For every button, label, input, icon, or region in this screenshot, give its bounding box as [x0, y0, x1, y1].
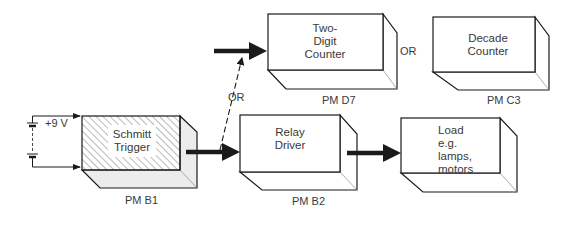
block-line: Relay — [265, 126, 315, 139]
battery-voltage-label: +9 V — [45, 117, 68, 130]
load-text: Load e.g. lamps, motors — [438, 124, 488, 176]
block-line: Digit — [295, 35, 355, 48]
block-line: Two- — [295, 22, 355, 35]
or-label-counter-alt: OR — [400, 45, 417, 58]
block-line: Decade — [458, 32, 518, 45]
arrow-dashed-or — [220, 58, 242, 150]
two-digit-counter-text: Two- Digit Counter — [295, 22, 355, 61]
block-line: Schmitt — [106, 128, 158, 141]
module-label-pm-c3: PM C3 — [487, 94, 521, 107]
block-line: Driver — [265, 139, 315, 152]
module-label-pm-d7: PM D7 — [322, 94, 356, 107]
block-line: Counter — [458, 45, 518, 58]
relay-driver-text: Relay Driver — [265, 126, 315, 152]
module-label-pm-b2: PM B2 — [292, 195, 325, 208]
block-line: e.g. — [438, 137, 488, 150]
block-line: motors — [438, 163, 488, 176]
block-line: lamps, — [438, 150, 488, 163]
module-label-pm-b1: PM B1 — [125, 194, 158, 207]
block-line: Load — [438, 124, 488, 137]
block-line: Trigger — [106, 141, 158, 154]
block-line: Counter — [295, 48, 355, 61]
schmitt-trigger-text: Schmitt Trigger — [106, 128, 158, 154]
or-label-dashed-branch: OR — [228, 91, 245, 104]
decade-counter-text: Decade Counter — [458, 32, 518, 58]
